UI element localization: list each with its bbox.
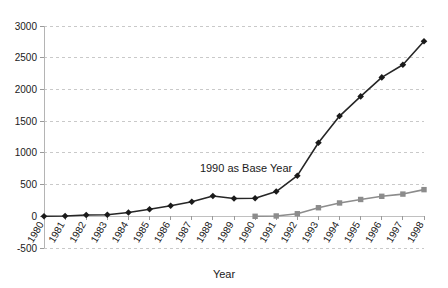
data-point-marker [295, 211, 300, 216]
data-point-marker [252, 214, 257, 219]
data-point-marker [358, 197, 363, 202]
data-point-marker [274, 213, 279, 218]
data-point-marker [421, 187, 426, 192]
y-axis-tick-label: 2000 [15, 84, 38, 95]
y-axis-tick-label: 1500 [15, 116, 38, 127]
line-chart: 300025002000150010005000-500 19801981198… [0, 0, 448, 288]
y-axis-tick-label: 1000 [15, 147, 38, 158]
y-axis-tick-label: 2500 [15, 52, 38, 63]
data-point-marker [400, 191, 405, 196]
y-axis-tick-label: 500 [20, 179, 37, 190]
base-year-annotation: 1990 as Base Year [200, 162, 293, 174]
x-axis-title: Year [213, 268, 236, 280]
data-point-marker [316, 205, 321, 210]
data-point-marker [337, 200, 342, 205]
y-axis-tick-label: 3000 [15, 21, 38, 32]
chart-container: 300025002000150010005000-500 19801981198… [0, 0, 448, 288]
data-point-marker [379, 194, 384, 199]
